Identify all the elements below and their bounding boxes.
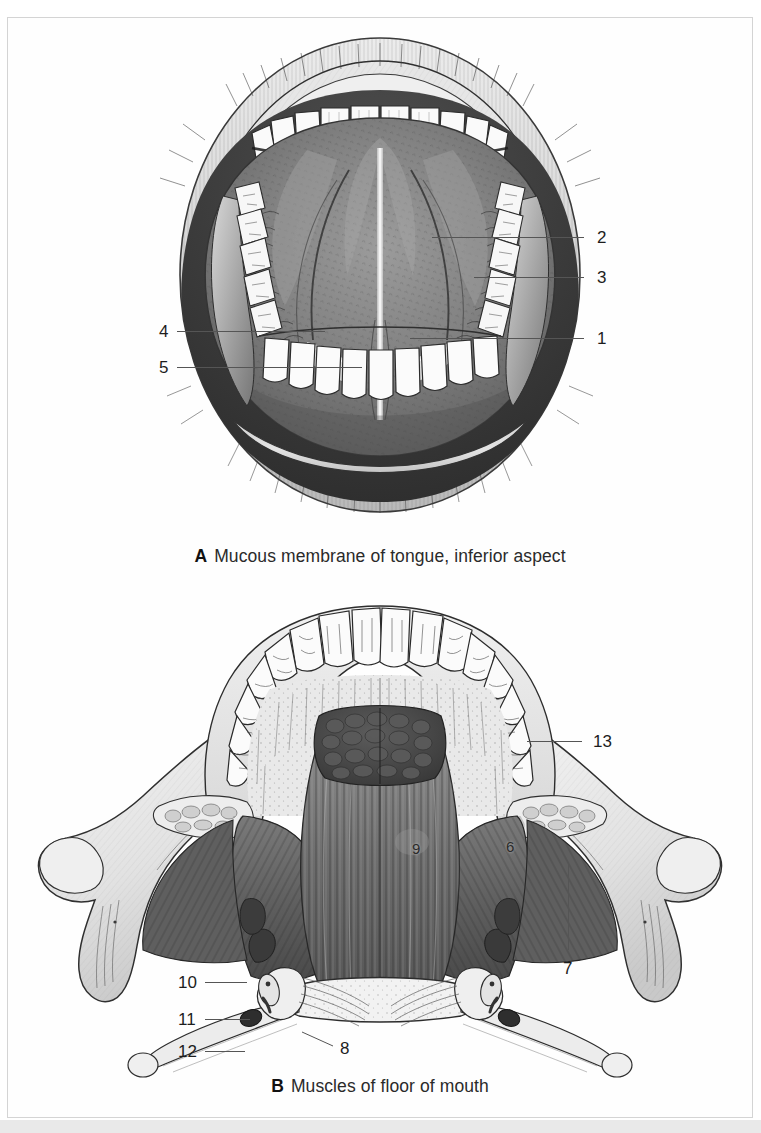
lingual-tonsil-root <box>314 706 446 786</box>
label-number-8: 8 <box>340 1040 349 1057</box>
leader-line-4 <box>177 331 325 332</box>
figure-b-letter: B <box>271 1076 284 1096</box>
figure-a-caption: AMucous membrane of tongue, inferior asp… <box>7 546 753 567</box>
figure-b-illustration <box>7 570 753 1080</box>
label-number-12: 12 <box>178 1043 197 1060</box>
leader-line-10 <box>205 982 247 983</box>
figure-a-letter: A <box>194 546 207 566</box>
leader-line-7 <box>568 862 569 950</box>
figure-a-caption-text: Mucous membrane of tongue, inferior aspe… <box>214 546 565 566</box>
page-root: 2 3 1 4 5 AMucous membrane of tongue, in… <box>0 0 761 1133</box>
label-number-1: 1 <box>597 330 606 347</box>
leader-line-2 <box>432 237 584 238</box>
leader-line-5 <box>177 367 362 368</box>
leader-line-12 <box>205 1051 245 1052</box>
label-number-4: 4 <box>159 323 168 340</box>
label-number-3: 3 <box>597 269 606 286</box>
figure-b-caption: BMuscles of floor of mouth <box>7 1076 753 1097</box>
figure-b-caption-text: Muscles of floor of mouth <box>291 1076 489 1096</box>
label-number-2: 2 <box>597 229 606 246</box>
label-number-7: 7 <box>563 960 572 977</box>
leader-line-11 <box>205 1019 250 1020</box>
leader-line-8 <box>295 1025 340 1055</box>
leader-line-13 <box>527 741 582 742</box>
hyoid-bone-body <box>128 978 632 1078</box>
label-number-5: 5 <box>159 359 168 376</box>
leader-line-1 <box>410 338 584 339</box>
label-number-10: 10 <box>178 974 197 991</box>
label-number-13: 13 <box>593 733 612 750</box>
page-bottom-strip <box>0 1120 761 1133</box>
label-number-9: 9 <box>412 841 420 856</box>
label-number-11: 11 <box>178 1011 196 1028</box>
figure-a-svg <box>7 20 753 530</box>
label-number-6: 6 <box>506 839 514 854</box>
figure-a-illustration <box>7 20 753 530</box>
leader-line-3 <box>474 277 584 278</box>
figure-b-svg <box>7 570 753 1080</box>
